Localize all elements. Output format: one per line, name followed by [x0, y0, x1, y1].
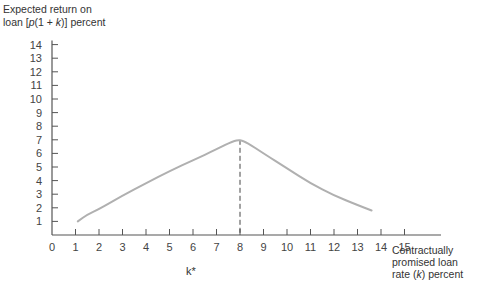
y-tick-label: 4 [36, 175, 42, 187]
axes [52, 41, 441, 235]
y-tick-label: 14 [30, 39, 42, 51]
y-tick-label: 6 [36, 147, 42, 159]
x-tick-label: 7 [213, 241, 219, 253]
y-tick-label: 5 [36, 161, 42, 173]
expected-return-curve [78, 140, 372, 221]
x-tick-label: 13 [351, 241, 363, 253]
y-tick-label: 1 [36, 215, 42, 227]
x-tick-label: 3 [119, 241, 125, 253]
x-tick-label: 6 [190, 241, 196, 253]
y-tick-label: 8 [36, 120, 42, 132]
x-tick-label: 12 [328, 241, 340, 253]
x-tick-label: 4 [143, 241, 149, 253]
x-tick-label: 11 [305, 241, 316, 253]
x-axis-label-line1: Contractually [392, 244, 463, 256]
x-tick-label: 14 [375, 241, 387, 253]
series [78, 140, 372, 235]
x-axis-label-line2: promised loan [392, 256, 463, 268]
x-tick-label: 0 [49, 241, 55, 253]
y-tick-label: 2 [36, 202, 42, 214]
x-axis-label: Contractually promised loan rate (k) per… [392, 244, 463, 280]
x-tick-label: 2 [96, 241, 102, 253]
y-tick-label: 3 [36, 188, 42, 200]
x-tick-label: 10 [281, 241, 293, 253]
y-tick-label: 7 [36, 134, 42, 146]
xlabel-part: ) percent [422, 268, 463, 280]
x-tick-label: 1 [72, 241, 78, 253]
x-tick-label: 9 [260, 241, 266, 253]
ticks: 1234567891011121314012345678910111213141… [30, 39, 411, 253]
x-tick-label: 5 [166, 241, 172, 253]
y-tick-label: 12 [30, 66, 42, 78]
k-star-label: k* [186, 265, 196, 277]
y-tick-label: 9 [36, 107, 42, 119]
y-tick-label: 11 [31, 79, 42, 91]
x-tick-label: 8 [237, 241, 243, 253]
xlabel-part: rate ( [392, 268, 417, 280]
y-tick-label: 13 [30, 52, 42, 64]
y-tick-label: 10 [30, 93, 42, 105]
x-axis-label-line3: rate (k) percent [392, 268, 463, 280]
